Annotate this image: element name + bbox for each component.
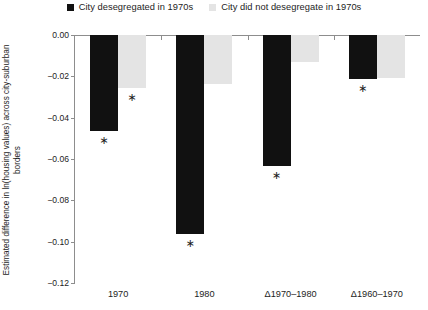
bar — [263, 35, 291, 166]
x-axis-tick-mark — [161, 35, 162, 40]
significance-marker: ∗ — [128, 92, 137, 103]
bar — [291, 35, 319, 62]
significance-marker: ∗ — [186, 238, 195, 249]
x-axis-tick-label: 1980 — [194, 289, 214, 299]
y-axis-tick-label: −0.12 — [41, 278, 69, 288]
legend-swatch-desegregated — [67, 4, 74, 11]
y-axis-tick-mark — [71, 283, 75, 284]
y-axis-tick-label: −0.10 — [41, 237, 69, 247]
significance-marker: ∗ — [272, 170, 281, 181]
legend-item-not-desegregated: City did not desegregate in 1970s — [209, 2, 361, 12]
bar — [349, 35, 377, 79]
y-axis-tick-mark — [71, 76, 75, 77]
y-axis-tick-label: 0.00 — [41, 30, 69, 40]
bar — [118, 35, 146, 88]
legend-label-desegregated: City desegregated in 1970s — [79, 2, 194, 12]
y-axis-tick-mark — [71, 242, 75, 243]
y-axis-tick-label: −0.04 — [41, 113, 69, 123]
x-axis-tick-mark — [248, 35, 249, 40]
significance-marker: ∗ — [358, 83, 367, 94]
x-axis-tick-label: Δ1970–1980 — [265, 289, 317, 299]
x-axis-tick-label: Δ1960–1970 — [351, 289, 403, 299]
bar — [377, 35, 405, 78]
y-axis-tick-label: −0.06 — [41, 154, 69, 164]
y-axis-tick-mark — [71, 118, 75, 119]
legend-item-desegregated: City desegregated in 1970s — [67, 2, 194, 12]
y-axis-tick-label: −0.08 — [41, 195, 69, 205]
x-axis-tick-label: 1970 — [108, 289, 128, 299]
y-axis-title: Estimated difference in ln(housing value… — [2, 35, 26, 285]
legend-label-not-desegregated: City did not desegregate in 1970s — [221, 2, 361, 12]
y-axis-tick-mark — [71, 35, 75, 36]
x-axis-tick-mark — [334, 35, 335, 40]
y-axis-tick-mark — [71, 200, 75, 201]
bar — [204, 35, 232, 84]
bar — [90, 35, 118, 131]
plot-area: 0.00−0.02−0.04−0.06−0.08−0.10−0.121970∗∗… — [74, 35, 420, 283]
bar — [176, 35, 204, 234]
significance-marker: ∗ — [100, 135, 109, 146]
chart-legend: City desegregated in 1970s City did not … — [0, 2, 428, 12]
y-axis-tick-label: −0.02 — [41, 71, 69, 81]
legend-swatch-not-desegregated — [209, 4, 216, 11]
bar-chart: City desegregated in 1970s City did not … — [0, 0, 428, 310]
y-axis-tick-mark — [71, 159, 75, 160]
